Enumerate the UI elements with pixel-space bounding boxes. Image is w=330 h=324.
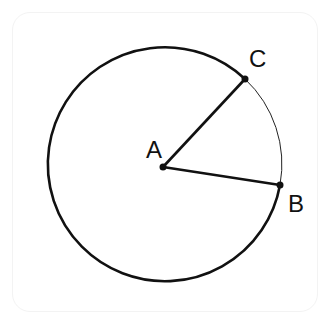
radius-ab — [163, 167, 280, 185]
label-c: C — [249, 47, 266, 71]
circle-diagram — [0, 0, 330, 324]
point-a — [160, 164, 167, 171]
minor-arc — [245, 79, 282, 185]
point-c — [242, 76, 249, 83]
point-b — [277, 182, 284, 189]
radius-ac — [163, 79, 245, 167]
label-b: B — [288, 192, 304, 216]
label-a: A — [146, 138, 162, 162]
